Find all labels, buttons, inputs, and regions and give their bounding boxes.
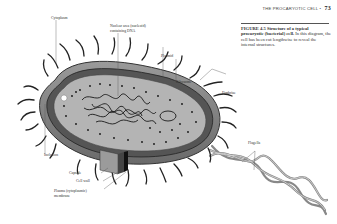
label-ribosome: Ribosome [176, 80, 191, 84]
label-cell-wall: Cell wall [76, 179, 90, 183]
label-fimbriae: Fimbriae [222, 91, 236, 95]
label-plasmid: Plasmid [161, 54, 173, 58]
label-plasma-membrane-line1: Plasma (cytoplasmic) [54, 189, 87, 193]
label-nuclear-area-line1: Nuclear area (nucleoid) [110, 24, 146, 28]
cut-section-icon [100, 150, 128, 174]
label-flagella: Flagella [248, 141, 260, 145]
label-inclusion: Inclusion [44, 153, 58, 157]
label-plasma-membrane-line2: membrane [54, 194, 70, 198]
bacterial-cell-diagram [0, 0, 337, 224]
label-cytoplasm: Cytoplasm [51, 16, 67, 20]
inclusion-icon [61, 95, 67, 101]
label-nuclear-area-line2: containing DNA [110, 29, 135, 33]
label-capsule: Capsule [69, 171, 81, 175]
